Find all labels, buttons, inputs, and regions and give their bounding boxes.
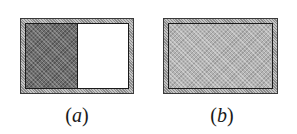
panel-b-label: b xyxy=(217,104,227,126)
caption-open-paren: ( xyxy=(210,104,217,126)
panel-a-caption: (a) xyxy=(47,104,107,127)
panel-b-frame xyxy=(163,18,278,94)
caption-close-paren: ) xyxy=(227,104,234,126)
panel-a-inner-box xyxy=(25,23,129,89)
panel-a-filled-region xyxy=(26,24,78,88)
panel-b-inner-box xyxy=(168,23,273,89)
panel-a-label: a xyxy=(72,104,82,126)
panel-b: (b) xyxy=(150,0,297,134)
caption-close-paren: ) xyxy=(82,104,89,126)
caption-open-paren: ( xyxy=(65,104,72,126)
panel-a-frame xyxy=(20,18,134,94)
panel-a: (a) xyxy=(0,0,150,134)
panel-b-caption: (b) xyxy=(192,104,252,127)
panel-b-filled-region xyxy=(169,24,272,88)
